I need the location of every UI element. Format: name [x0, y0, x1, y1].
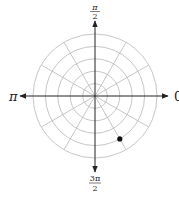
label-3pi-over-2-den: 2	[92, 184, 97, 193]
plotted-points	[117, 136, 122, 141]
polar-spoke	[41, 65, 95, 96]
label-pi-over-2-den: 2	[92, 12, 97, 21]
label-zero: 0	[174, 89, 179, 104]
polar-spoke	[95, 42, 126, 96]
label-pi-over-2-num: π	[91, 3, 98, 12]
polar-grid-diagram: 0 π π 2 3π 2	[0, 0, 179, 198]
polar-spoke	[64, 96, 95, 150]
label-pi: π	[8, 89, 18, 104]
polar-spoke	[95, 65, 149, 96]
polar-spoke	[41, 96, 95, 127]
plotted-point	[117, 136, 122, 141]
polar-spoke	[64, 42, 95, 96]
polar-spoke	[95, 96, 126, 150]
polar-spoke	[95, 96, 149, 127]
label-3pi-over-2-num: 3π	[90, 174, 100, 183]
